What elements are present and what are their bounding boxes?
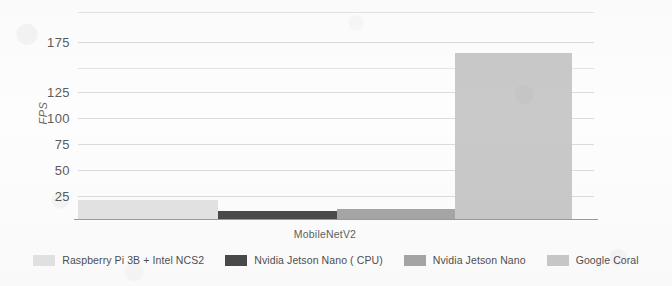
y-tick-75: 75	[55, 137, 70, 152]
gridline-200	[78, 12, 594, 13]
gridline-175	[78, 42, 594, 43]
y-axis-title-text: FPS	[37, 102, 49, 125]
legend-swatch-icon	[404, 255, 426, 266]
legend-item-nvidia-jetson-nano: Nvidia Jetson Nano	[404, 254, 526, 266]
chart-legend: Raspberry Pi 3B + Intel NCS2 Nvidia Jets…	[0, 254, 672, 266]
legend-label: Raspberry Pi 3B + Intel NCS2	[62, 254, 204, 266]
y-axis-tick-labels: 175 125 100 75 50 25	[0, 0, 70, 286]
y-tick-50: 50	[55, 163, 70, 178]
legend-item-nvidia-jetson-nano-cpu: Nvidia Jetson Nano ( CPU)	[225, 254, 383, 266]
legend-item-raspberry-pi-3b-intel-ncs2: Raspberry Pi 3B + Intel NCS2	[33, 254, 204, 266]
bar-raspberry-pi-3b-intel-ncs2	[78, 200, 218, 219]
x-axis-line	[74, 219, 598, 220]
bar-google-coral	[455, 53, 572, 219]
legend-label: Nvidia Jetson Nano ( CPU)	[254, 254, 383, 266]
legend-label: Google Coral	[576, 254, 639, 266]
x-axis-category-label-text: MobileNetV2	[294, 228, 356, 240]
bar-nvidia-jetson-nano-cpu	[218, 211, 337, 219]
legend-swatch-icon	[547, 255, 569, 266]
y-axis-title: FPS	[23, 93, 63, 133]
bar-nvidia-jetson-nano	[337, 209, 455, 219]
fps-benchmark-bar-chart: 175 125 100 75 50 25 FPS MobileNetV2 Ras…	[0, 0, 672, 286]
y-tick-175: 175	[47, 35, 70, 50]
plot-area	[78, 12, 594, 219]
y-tick-25: 25	[55, 189, 70, 204]
x-axis-category-label: MobileNetV2	[0, 228, 672, 240]
legend-item-google-coral: Google Coral	[547, 254, 639, 266]
legend-swatch-icon	[33, 255, 55, 266]
legend-label: Nvidia Jetson Nano	[433, 254, 526, 266]
legend-swatch-icon	[225, 255, 247, 266]
